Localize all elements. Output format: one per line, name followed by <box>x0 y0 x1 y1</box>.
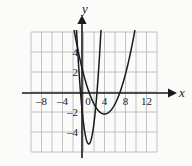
curve-narrow-parabola <box>76 25 101 144</box>
grid-lines <box>31 32 157 152</box>
parabola-graph-figure: –8–40481242–2–4 x y <box>0 0 192 166</box>
y-axis-label: y <box>80 1 88 16</box>
y-axis-arrowhead <box>77 15 86 24</box>
x-tick-label: 4 <box>102 95 108 107</box>
x-tick-label: 8 <box>123 95 129 107</box>
coordinate-plane: –8–40481242–2–4 x y <box>0 0 192 166</box>
x-tick-label: 12 <box>141 95 152 107</box>
x-tick-label: –8 <box>35 95 48 107</box>
x-axis-label: x <box>178 85 185 100</box>
y-tick-label: –2 <box>66 106 78 118</box>
axes <box>22 15 177 158</box>
y-tick-label: 2 <box>73 66 79 78</box>
y-tick-label: –4 <box>66 126 79 138</box>
x-axis-arrowhead <box>168 88 177 97</box>
